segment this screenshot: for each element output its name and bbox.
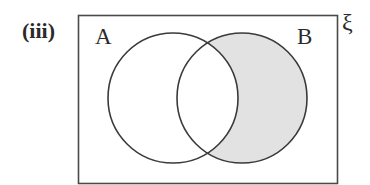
universal-set-symbol: ξ bbox=[342, 10, 353, 34]
set-b-label: B bbox=[297, 25, 312, 48]
set-a-label: A bbox=[95, 25, 112, 48]
venn-diagram bbox=[0, 0, 370, 185]
